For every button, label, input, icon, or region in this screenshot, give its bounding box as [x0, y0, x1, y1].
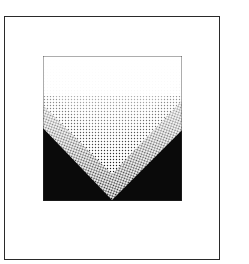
- stippled-chevron-artwork: [43, 56, 182, 201]
